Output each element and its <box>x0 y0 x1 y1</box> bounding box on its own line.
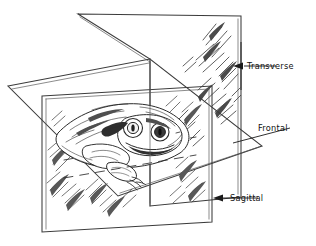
anatomical-planes-figure: Transverse Frontal Sagittal <box>0 0 316 246</box>
frog-eye-right-pupil <box>158 129 161 136</box>
label-frontal: Frontal <box>258 124 288 132</box>
label-sagittal: Sagittal <box>230 194 263 202</box>
frog-eye-left-pupil <box>131 124 134 131</box>
label-transverse: Transverse <box>247 62 294 70</box>
transverse-plane <box>42 86 212 232</box>
